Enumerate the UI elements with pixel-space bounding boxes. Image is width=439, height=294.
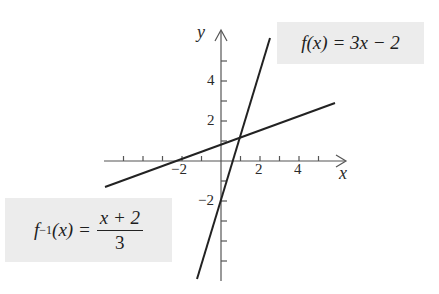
x-tick-label: 2 xyxy=(255,161,263,178)
x-axis xyxy=(104,155,346,167)
finv-function-label: f−1(x) = x + 2 3 xyxy=(5,198,172,262)
y-axis-label: y xyxy=(197,22,205,43)
y-axis xyxy=(215,30,227,281)
finv-numerator: x + 2 xyxy=(97,207,143,231)
finv-fraction: x + 2 3 xyxy=(97,207,143,254)
x-tick-label: 4 xyxy=(294,161,302,178)
finv-superscript: −1 xyxy=(39,223,52,238)
f-function-label: f(x) = 3x − 2 xyxy=(277,22,424,64)
finv-arg: (x) = xyxy=(52,219,91,241)
x-tick-label: −2 xyxy=(171,161,187,178)
y-tick-label: 2 xyxy=(207,112,215,129)
y-tick-label: −2 xyxy=(198,192,214,209)
y-tick-label: 4 xyxy=(207,72,215,89)
finv-denominator: 3 xyxy=(97,231,143,254)
f-equation: f(x) = 3x − 2 xyxy=(301,32,399,53)
x-axis-label: x xyxy=(339,163,347,184)
